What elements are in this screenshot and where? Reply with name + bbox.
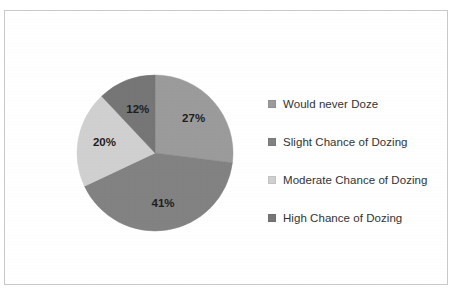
legend-item[interactable]: Moderate Chance of Dozing: [268, 173, 450, 187]
chart-frame: 27%41%20%12% Would never DozeSlight Chan…: [4, 10, 448, 285]
legend-swatch-icon: [268, 176, 276, 184]
legend-swatch-icon: [268, 100, 276, 108]
chart-legend: Would never DozeSlight Chance of DozingM…: [268, 97, 450, 225]
legend-swatch-icon: [268, 214, 276, 222]
legend-item-label: Moderate Chance of Dozing: [283, 174, 427, 186]
pie-svg: 27%41%20%12%: [75, 73, 235, 233]
legend-item-label: Would never Doze: [283, 98, 378, 110]
pie-slice-label: 41%: [152, 197, 175, 209]
legend-swatch-icon: [268, 138, 276, 146]
legend-item[interactable]: High Chance of Dozing: [268, 211, 450, 225]
legend-item[interactable]: Would never Doze: [268, 97, 450, 111]
pie-slice-label: 27%: [182, 112, 205, 124]
legend-item-label: High Chance of Dozing: [283, 212, 402, 224]
pie-chart: 27%41%20%12%: [75, 73, 235, 233]
pie-slice-label: 20%: [93, 136, 116, 148]
pie-slice-label: 12%: [126, 103, 149, 115]
clipped-header-text: · · ·: [0, 0, 458, 8]
legend-item[interactable]: Slight Chance of Dozing: [268, 135, 450, 149]
legend-item-label: Slight Chance of Dozing: [283, 136, 408, 148]
